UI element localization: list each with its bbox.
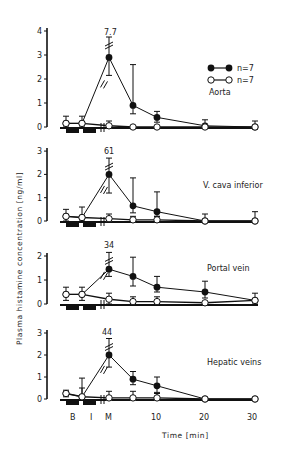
- filled-marker: [202, 289, 209, 296]
- baseline-bar: [66, 305, 79, 310]
- panels: 0123401230120123: [37, 27, 258, 405]
- infusion-bar: [83, 128, 96, 133]
- open-marker: [63, 291, 69, 297]
- open-marker: [202, 218, 208, 224]
- open-circle-icon: [208, 77, 214, 83]
- legend: n=7 n=7: [208, 64, 254, 85]
- filled-marker: [106, 171, 113, 178]
- filled-circle-icon: [208, 65, 215, 72]
- open-marker: [106, 123, 112, 129]
- x-tick-20: 20: [199, 413, 209, 422]
- x-tick-B: B: [70, 413, 76, 422]
- open-marker: [154, 395, 160, 401]
- open-marker: [63, 213, 69, 219]
- y-tick-label: 2: [37, 351, 42, 360]
- y-tick-label: 1: [37, 373, 42, 382]
- infusion-bar: [83, 400, 96, 405]
- y-tick-label: 2: [37, 252, 42, 261]
- histamine-figure: Plasma histamine concentration [ng/ml] 0…: [0, 0, 282, 463]
- filled-marker: [130, 376, 137, 383]
- open-marker: [63, 120, 69, 126]
- open-marker: [79, 291, 85, 297]
- y-tick-label: 4: [37, 27, 42, 36]
- open-marker: [106, 395, 112, 401]
- y-tick-label: 3: [37, 329, 42, 338]
- y-tick-label: 0: [37, 217, 42, 226]
- legend-open-label: n=7: [237, 76, 254, 85]
- open-circle-icon: [226, 77, 232, 83]
- open-marker: [106, 296, 112, 302]
- open-marker: [130, 298, 136, 304]
- baseline-bar: [66, 400, 79, 405]
- y-tick-label: 0: [37, 300, 42, 309]
- filled-marker: [154, 208, 161, 215]
- open-marker: [130, 217, 136, 223]
- baseline-bar: [66, 128, 79, 133]
- peak-annotation-aorta: 7.7: [104, 28, 117, 37]
- panel-label-portal: Portal vein: [207, 264, 249, 273]
- open-marker: [154, 298, 160, 304]
- open-marker: [106, 215, 112, 221]
- y-axis-title: Plasma histamine concentration [ng/ml]: [15, 172, 24, 345]
- panel-label-vcava: V. cava inferior: [203, 181, 263, 190]
- open-marker: [79, 214, 85, 220]
- open-marker: [79, 394, 85, 400]
- open-marker: [79, 120, 85, 126]
- y-tick-label: 1: [37, 99, 42, 108]
- filled-marker: [154, 382, 161, 389]
- baseline-bar: [66, 222, 79, 227]
- legend-filled-label: n=7: [237, 64, 254, 73]
- peak-annotation-vcava: 61: [104, 147, 114, 156]
- filled-marker: [106, 266, 113, 273]
- open-marker: [154, 217, 160, 223]
- x-tick-10: 10: [151, 413, 161, 422]
- open-marker: [252, 124, 258, 130]
- open-marker: [252, 396, 258, 402]
- y-tick-label: 1: [37, 194, 42, 203]
- open-marker: [130, 124, 136, 130]
- panel-portal-vein: 012: [37, 252, 258, 310]
- filled-circle-icon: [226, 65, 233, 72]
- panel-label-aorta: Aorta: [209, 88, 231, 97]
- x-tick-I: I: [90, 413, 92, 422]
- y-tick-label: 3: [37, 147, 42, 156]
- filled-marker: [154, 114, 161, 121]
- open-marker: [130, 395, 136, 401]
- filled-marker: [154, 284, 161, 291]
- infusion-bar: [83, 305, 96, 310]
- peak-annotation-hepatic: 44: [102, 328, 112, 337]
- y-tick-label: 2: [37, 75, 42, 84]
- open-marker: [252, 297, 258, 303]
- filled-marker: [106, 54, 113, 61]
- open-marker: [63, 390, 69, 396]
- open-marker: [202, 124, 208, 130]
- panel-hepatic-veins: 0123: [37, 329, 258, 405]
- infusion-bar: [83, 222, 96, 227]
- panel-label-hepatic: Hepatic veins: [207, 358, 261, 367]
- y-tick-label: 3: [37, 51, 42, 60]
- filled-marker: [130, 273, 137, 280]
- filled-marker: [106, 352, 113, 359]
- filled-marker: [130, 102, 137, 109]
- x-tick-30: 30: [247, 413, 257, 422]
- open-marker: [202, 300, 208, 306]
- y-tick-label: 2: [37, 170, 42, 179]
- y-tick-label: 0: [37, 123, 42, 132]
- peak-annotation-portal: 34: [104, 241, 114, 250]
- open-marker: [154, 124, 160, 130]
- x-tick-M: M: [105, 413, 112, 422]
- x-axis-title: Time [min]: [161, 431, 209, 440]
- open-marker: [202, 396, 208, 402]
- filled-marker: [130, 202, 137, 209]
- y-tick-label: 0: [37, 395, 42, 404]
- open-marker: [252, 218, 258, 224]
- y-tick-label: 1: [37, 276, 42, 285]
